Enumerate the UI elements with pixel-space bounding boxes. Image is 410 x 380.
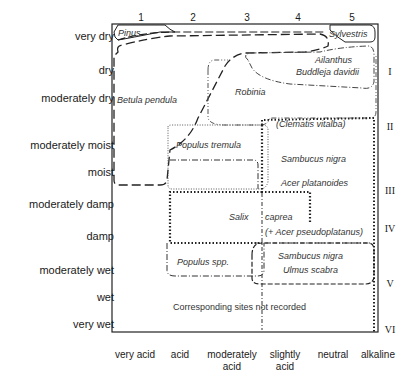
x-number-1: 1: [138, 12, 144, 23]
class-VI: VI: [385, 324, 396, 335]
x-label-alkaline: alkaline: [361, 349, 395, 361]
x-label-moderately: moderately: [207, 349, 256, 360]
y-label-damp: damp: [86, 230, 114, 242]
label-sambucus-nigra-2: Sambucus nigra: [278, 251, 343, 261]
y-label-wet: wet: [97, 291, 114, 303]
label-caprea: caprea: [265, 212, 293, 222]
acer-platanoides-line: [170, 160, 258, 189]
class-IV: IV: [385, 223, 396, 234]
x-label-very-acid: very acid: [115, 349, 155, 361]
label-betula: Betula pendula: [117, 95, 177, 105]
x-label-acid: acid: [171, 349, 189, 361]
x-number-2: 2: [190, 12, 196, 23]
class-III: III: [385, 185, 395, 196]
class-I: I: [388, 66, 391, 77]
label-acer-platanoides: Acer platanoides: [281, 178, 348, 188]
label-sylvestris: Sylvestris: [329, 29, 368, 39]
label-robinia: Robinia: [235, 87, 266, 97]
y-label-very-dry: very dry: [75, 30, 114, 42]
label-pinus: Pinus: [118, 28, 141, 38]
label-populus-tremula: Populus tremula: [176, 140, 241, 150]
label-salix: Salix: [229, 212, 249, 222]
class-V: V: [386, 278, 393, 289]
label-ulmus-scabra: Ulmus scabra: [283, 265, 338, 275]
populus-tremula-outline: [168, 125, 268, 189]
y-label-dry: dry: [99, 64, 114, 76]
x-number-3: 3: [244, 12, 250, 23]
x-number-4: 4: [295, 12, 301, 23]
x-label-moderately-acid: moderately acid: [207, 349, 256, 373]
y-label-moderately-damp: moderately damp: [29, 198, 114, 210]
x-number-5: 5: [349, 12, 355, 23]
sambucus-ulmus-outline: [252, 243, 374, 284]
x-label-moderately-acid-2: acid: [223, 361, 241, 372]
x-label-slightly-acid-2: acid: [276, 361, 294, 372]
class-II: II: [387, 121, 394, 132]
x-label-slightly-acid: slightly acid: [270, 349, 301, 373]
note-not-recorded: Corresponding sites not recorded: [173, 302, 306, 312]
pinus-sylvestris-line: [118, 32, 325, 40]
y-label-very-wet: very wet: [73, 318, 114, 330]
label-sambucus-nigra-1: Sambucus nigra: [281, 154, 346, 164]
label-populus-spp: Populus spp.: [177, 257, 229, 267]
label-acer-pseudoplatanus: (+ Acer pseudoplatanus): [265, 227, 363, 237]
label-buddleja: Buddleja davidii: [296, 67, 359, 77]
label-ailanthus: Ailanthus: [315, 55, 352, 65]
label-clematis: (Clematis vitalba): [276, 119, 346, 129]
x-label-slightly: slightly: [270, 349, 301, 360]
y-label-moderately-moist: moderately moist: [30, 139, 114, 151]
clematis-outline: [262, 118, 374, 332]
y-label-moist: moist: [88, 166, 114, 178]
x-label-neutral: neutral: [318, 349, 349, 361]
y-label-moderately-dry: moderately dry: [41, 92, 114, 104]
y-label-moderately-wet: moderately wet: [39, 264, 114, 276]
